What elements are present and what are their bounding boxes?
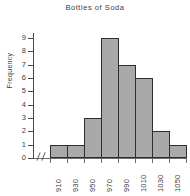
x-tick-label-1050: 1050 bbox=[173, 175, 182, 193]
x-tick-label-930: 930 bbox=[71, 179, 80, 192]
x-tick-950 bbox=[84, 158, 85, 163]
histogram-bar bbox=[135, 78, 153, 158]
x-tick-label-910: 910 bbox=[54, 179, 63, 192]
x-tick-1030 bbox=[152, 158, 153, 163]
x-tick-1010 bbox=[135, 158, 136, 163]
y-tick-label-9: 9 bbox=[14, 34, 26, 42]
y-tick-label-3: 3 bbox=[14, 114, 26, 122]
y-tick-label-1: 1 bbox=[14, 141, 26, 149]
x-tick-930 bbox=[67, 158, 68, 163]
x-tick-label-1030: 1030 bbox=[156, 175, 165, 193]
y-tick-label-4: 4 bbox=[14, 101, 26, 109]
histogram-bar bbox=[169, 145, 187, 158]
y-tick-4 bbox=[28, 105, 34, 106]
y-tick-6 bbox=[28, 78, 34, 79]
y-tick-5 bbox=[28, 91, 34, 92]
histogram-bar bbox=[118, 65, 136, 158]
x-tick-label-990: 990 bbox=[122, 179, 131, 192]
y-tick-9 bbox=[28, 38, 34, 39]
x-tick-label-970: 970 bbox=[105, 179, 114, 192]
histogram-bar bbox=[101, 38, 119, 158]
y-tick-7 bbox=[28, 65, 34, 66]
y-tick-label-7: 7 bbox=[14, 61, 26, 69]
x-tick-label-950: 950 bbox=[88, 179, 97, 192]
x-tick-990 bbox=[118, 158, 119, 163]
y-tick-8 bbox=[28, 51, 34, 52]
y-tick-2 bbox=[28, 131, 34, 132]
y-tick-label-6: 6 bbox=[14, 74, 26, 82]
y-tick-1 bbox=[28, 145, 34, 146]
y-tick-label-5: 5 bbox=[14, 87, 26, 95]
histogram-chart: Bottles of Soda Frequency 0123456789 910… bbox=[0, 0, 190, 196]
y-tick-label-8: 8 bbox=[14, 47, 26, 55]
y-axis-label: Frequency bbox=[6, 36, 13, 106]
x-axis-line bbox=[33, 158, 186, 159]
chart-title: Bottles of Soda bbox=[0, 3, 190, 12]
axis-break-slash-2 bbox=[41, 152, 45, 161]
y-tick-0 bbox=[28, 158, 34, 159]
x-tick-1050 bbox=[169, 158, 170, 163]
x-tick-label-1010: 1010 bbox=[139, 175, 148, 193]
histogram-bar bbox=[152, 131, 170, 158]
histogram-bar bbox=[84, 118, 102, 158]
x-tick-1070 bbox=[186, 158, 187, 163]
x-tick-910 bbox=[50, 158, 51, 163]
histogram-bar bbox=[67, 145, 85, 158]
y-tick-label-2: 2 bbox=[14, 127, 26, 135]
x-tick-970 bbox=[101, 158, 102, 163]
y-tick-3 bbox=[28, 118, 34, 119]
histogram-bar bbox=[50, 145, 68, 158]
axis-break-slash-1 bbox=[36, 152, 40, 161]
y-tick-label-0: 0 bbox=[14, 154, 26, 162]
